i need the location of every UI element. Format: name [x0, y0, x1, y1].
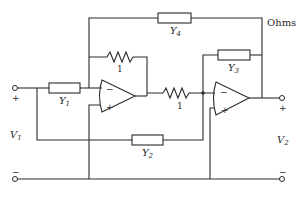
y3-label: Y3 — [228, 62, 240, 75]
output-plus-sign: + — [279, 103, 287, 113]
opamp-2-noninverting: + — [221, 105, 229, 115]
circuit-diagram: Y4 Ohms 1 Y3 + V1 − Y1 Y2 − + — [0, 0, 298, 200]
output-voltage-label: V2 — [277, 134, 289, 147]
series-resistor-value: 1 — [177, 101, 183, 111]
series-resistor: 1 — [147, 88, 215, 111]
opamp-1-noninverting: + — [106, 102, 114, 112]
y1-label: Y1 — [59, 95, 70, 108]
input-plus-sign: + — [12, 93, 20, 103]
input-port: + V1 − — [10, 86, 22, 182]
admittance-y2 — [132, 135, 163, 145]
output-port: + V2 − — [277, 96, 289, 182]
admittance-y1 — [49, 83, 80, 93]
output-terminal-minus — [280, 177, 285, 182]
y4-label: Y4 — [170, 25, 181, 38]
output-terminal-plus — [280, 96, 285, 101]
input-minus-sign: − — [12, 167, 20, 177]
opamp-2-inverting: − — [220, 87, 228, 97]
opamp-1-inverting: − — [106, 84, 114, 94]
input-terminal-plus — [13, 86, 18, 91]
junction-node — [201, 91, 205, 95]
feedback-resistor-value: 1 — [117, 64, 123, 74]
opamp-2: − + — [210, 82, 280, 179]
y2-label: Y2 — [142, 147, 154, 160]
units-label: Ohms — [267, 17, 296, 28]
admittance-y3 — [218, 50, 250, 60]
feedback-resistor: 1 — [89, 52, 147, 96]
opamp-1: − + — [89, 80, 147, 179]
output-minus-sign: − — [279, 167, 287, 177]
y3-branch: Y3 — [203, 50, 262, 93]
input-voltage-label: V1 — [10, 129, 22, 142]
input-terminal-minus — [13, 177, 18, 182]
admittance-y4 — [158, 13, 191, 23]
